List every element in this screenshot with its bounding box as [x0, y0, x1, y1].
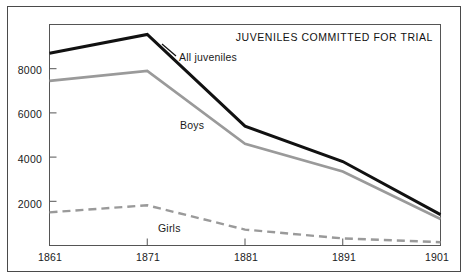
series-line-girls [50, 205, 441, 242]
y-tick-label-8000: 8000 [2, 64, 42, 76]
series-label-boys: Boys [180, 119, 204, 131]
x-tick-label-1891: 1891 [322, 251, 366, 263]
data-series-group [50, 34, 441, 242]
y-tick-label-2000: 2000 [2, 198, 42, 210]
series-line-boys [50, 71, 441, 219]
series-label-all-juveniles: All juveniles [179, 51, 237, 63]
x-tick-label-1901: 1901 [415, 251, 459, 263]
y-tick-label-6000: 6000 [2, 108, 42, 120]
x-tick-label-1871: 1871 [126, 251, 170, 263]
y-tick-label-4000: 4000 [2, 153, 42, 165]
axis-ticks [50, 69, 441, 246]
chart-figure: JUVENILES COMMITTED FOR TRIAL 8000 6000 … [0, 0, 468, 279]
series-label-girls: Girls [158, 222, 181, 234]
series-line-all-juveniles [50, 34, 441, 214]
x-tick-label-1861: 1861 [28, 251, 72, 263]
chart-title: JUVENILES COMMITTED FOR TRIAL [236, 31, 433, 43]
x-tick-label-1881: 1881 [224, 251, 268, 263]
